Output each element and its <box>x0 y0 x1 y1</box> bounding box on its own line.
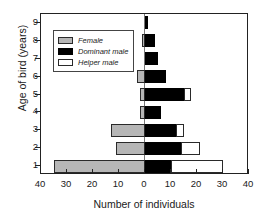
population-pyramid-chart: Age of bird (years) 123456789 FemaleDomi… <box>0 0 272 222</box>
bar-dominant-male-age-3 <box>145 124 176 137</box>
bar-dominant-male-age-4 <box>145 106 161 119</box>
x-tick-mark <box>66 169 67 174</box>
x-tick-label: 40 <box>237 178 259 189</box>
x-tick-label: 10 <box>107 178 129 189</box>
bar-dominant-male-age-2 <box>145 142 181 155</box>
bar-female-age-2 <box>116 142 145 155</box>
x-tick-mark <box>118 169 119 174</box>
x-tick-label: 0 <box>133 178 155 189</box>
x-tick-label: 30 <box>211 178 233 189</box>
bar-dominant-male-age-5 <box>145 88 184 101</box>
legend-swatch-female-icon <box>58 37 73 44</box>
legend-label: Helper male <box>78 58 118 67</box>
x-tick-mark <box>40 169 41 174</box>
bar-dominant-male-age-6 <box>145 70 166 83</box>
x-tick-mark <box>170 169 171 174</box>
bar-row-age-9 <box>41 16 247 29</box>
x-tick-label: 10 <box>159 178 181 189</box>
bar-helper-male-age-1 <box>171 160 223 173</box>
bar-female-age-3 <box>111 124 145 137</box>
legend-item-helper: Helper male <box>58 57 128 67</box>
bar-helper-male-age-5 <box>184 88 191 101</box>
x-tick-label: 20 <box>185 178 207 189</box>
bar-row-age-3 <box>41 124 247 137</box>
bar-helper-male-age-2 <box>181 142 199 155</box>
x-tick-mark <box>196 169 197 174</box>
x-tick-label: 40 <box>29 178 51 189</box>
bar-dominant-male-age-9 <box>145 16 148 29</box>
legend-label: Dominant male <box>78 47 128 56</box>
bar-helper-male-age-3 <box>176 124 184 137</box>
x-tick-label: 20 <box>81 178 103 189</box>
legend-label: Female <box>78 36 103 45</box>
x-tick-mark <box>222 169 223 174</box>
x-axis-title: Number of individuals <box>40 198 248 210</box>
x-tick-label: 30 <box>55 178 77 189</box>
bar-dominant-male-age-7 <box>145 52 158 65</box>
x-tick-mark <box>248 169 249 174</box>
bar-dominant-male-age-8 <box>145 34 155 47</box>
legend-swatch-dominant-icon <box>58 48 73 55</box>
bar-dominant-male-age-1 <box>145 160 171 173</box>
bar-female-age-6 <box>137 70 145 83</box>
bar-row-age-5 <box>41 88 247 101</box>
legend-item-female: Female <box>58 35 128 45</box>
chart-legend: FemaleDominant maleHelper male <box>53 30 134 72</box>
bar-row-age-4 <box>41 106 247 119</box>
bar-female-age-1 <box>54 160 145 173</box>
legend-swatch-helper-icon <box>58 59 73 66</box>
legend-item-dominant: Dominant male <box>58 46 128 56</box>
bar-row-age-2 <box>41 142 247 155</box>
x-tick-mark <box>144 169 145 174</box>
bar-row-age-6 <box>41 70 247 83</box>
x-tick-mark <box>92 169 93 174</box>
plot-area: FemaleDominant maleHelper male <box>40 13 248 174</box>
